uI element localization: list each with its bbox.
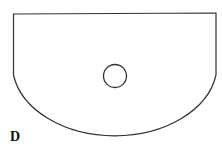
outline-shape xyxy=(0,0,222,154)
diagram-figure: D xyxy=(0,0,222,154)
d-shape-outline xyxy=(14,13,217,136)
figure-label: D xyxy=(10,130,20,144)
